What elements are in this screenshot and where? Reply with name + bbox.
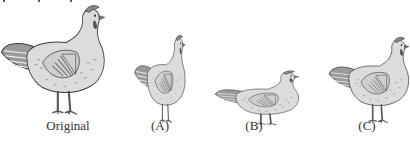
chicken-c-figure (328, 36, 410, 124)
cropped-text-fragment (0, 0, 80, 3)
label-c: (C) (327, 118, 407, 134)
label-a: (A) (120, 118, 200, 134)
chicken-original-figure (0, 4, 106, 116)
chicken-a-figure (134, 34, 186, 124)
label-b: (B) (214, 118, 294, 134)
label-original: Original (28, 118, 108, 134)
